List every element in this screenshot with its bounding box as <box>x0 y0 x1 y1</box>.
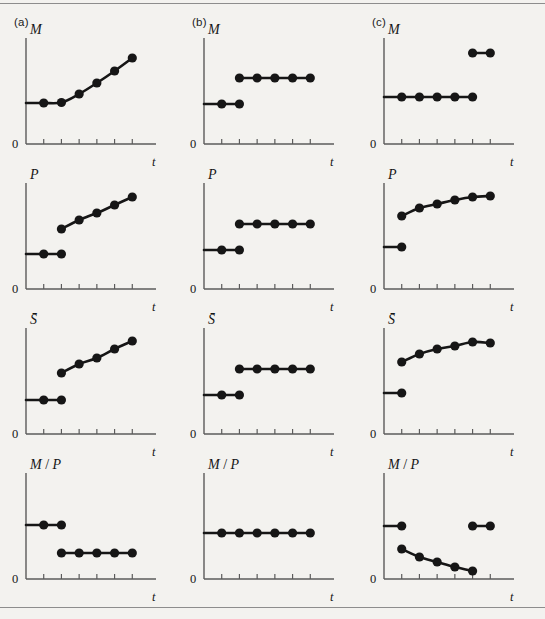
data-point <box>468 337 477 346</box>
data-point <box>433 557 442 566</box>
data-point <box>128 53 137 62</box>
chart-canvas-c-P: Pt0 <box>362 171 532 316</box>
y-axis-label: P <box>29 167 39 182</box>
data-point <box>75 215 84 224</box>
data-point <box>288 364 297 373</box>
series-line <box>402 342 491 362</box>
data-point <box>397 357 406 366</box>
y-axis-label: M / P <box>207 457 240 472</box>
origin-label: 0 <box>190 137 196 151</box>
series-line <box>402 196 491 216</box>
y-axis-label: S̄ <box>208 312 215 327</box>
data-point <box>217 528 226 537</box>
y-axis-label: P <box>387 167 397 182</box>
data-point <box>110 548 119 557</box>
data-point <box>253 73 262 82</box>
y-axis-label: P <box>207 167 217 182</box>
chart-panel-b-P: Pt0 <box>182 171 352 316</box>
chart-canvas-b-P: Pt0 <box>182 171 352 316</box>
data-point <box>486 521 495 530</box>
data-point <box>92 208 101 217</box>
data-point <box>217 99 226 108</box>
data-point <box>253 364 262 373</box>
data-point <box>57 368 66 377</box>
data-point <box>288 73 297 82</box>
origin-label: 0 <box>12 282 18 296</box>
data-point <box>92 548 101 557</box>
y-axis-label: M <box>387 22 401 37</box>
chart-canvas-a-M: Mt0 <box>4 26 174 171</box>
data-point <box>468 566 477 575</box>
data-point <box>57 224 66 233</box>
figure-panel-grid: (a) (b) (c) Mt0Pt0S̄t0M / Pt0Mt0Pt0S̄t0M… <box>0 0 545 619</box>
y-axis-label: M <box>207 22 221 37</box>
data-point <box>450 341 459 350</box>
data-point <box>397 521 406 530</box>
y-axis-label: M / P <box>387 457 420 472</box>
chart-canvas-a-P: Pt0 <box>4 171 174 316</box>
data-point <box>270 219 279 228</box>
data-point <box>486 191 495 200</box>
x-axis-label: t <box>152 300 156 314</box>
data-point <box>306 73 315 82</box>
data-point <box>433 92 442 101</box>
data-point <box>270 364 279 373</box>
data-point <box>75 359 84 368</box>
x-axis-label: t <box>510 445 514 459</box>
data-point <box>397 92 406 101</box>
chart-panel-a-S: S̄t0 <box>4 316 174 461</box>
origin-label: 0 <box>190 427 196 441</box>
data-point <box>235 99 244 108</box>
data-point <box>39 98 48 107</box>
data-point <box>468 92 477 101</box>
data-point <box>450 92 459 101</box>
data-point <box>288 528 297 537</box>
x-axis-label: t <box>330 300 334 314</box>
x-axis-label: t <box>152 445 156 459</box>
x-axis-label: t <box>330 155 334 169</box>
data-point <box>397 242 406 251</box>
data-point <box>270 73 279 82</box>
origin-label: 0 <box>370 282 376 296</box>
data-point <box>110 200 119 209</box>
chart-canvas-c-S: S̄t0 <box>362 316 532 461</box>
data-point <box>75 89 84 98</box>
y-axis-label: M <box>29 22 43 37</box>
x-axis-label: t <box>510 590 514 604</box>
data-point <box>306 219 315 228</box>
x-axis-label: t <box>510 300 514 314</box>
x-axis-label: t <box>510 155 514 169</box>
data-point <box>235 390 244 399</box>
chart-canvas-b-M: Mt0 <box>182 26 352 171</box>
data-point <box>288 219 297 228</box>
origin-label: 0 <box>370 572 376 586</box>
data-point <box>306 364 315 373</box>
data-point <box>415 349 424 358</box>
data-point <box>57 520 66 529</box>
data-point <box>253 528 262 537</box>
y-axis-label: M / P <box>29 457 62 472</box>
data-point <box>397 211 406 220</box>
data-point <box>235 364 244 373</box>
data-point <box>128 192 137 201</box>
chart-panel-a-P: Pt0 <box>4 171 174 316</box>
data-point <box>110 66 119 75</box>
y-axis-label: S̄ <box>30 312 37 327</box>
origin-label: 0 <box>12 137 18 151</box>
data-point <box>468 192 477 201</box>
data-point <box>253 219 262 228</box>
data-point <box>57 548 66 557</box>
data-point <box>450 562 459 571</box>
chart-panel-b-MP: M / Pt0 <box>182 461 352 606</box>
data-point <box>217 390 226 399</box>
origin-label: 0 <box>12 572 18 586</box>
data-point <box>57 395 66 404</box>
data-point <box>128 548 137 557</box>
chart-canvas-a-S: S̄t0 <box>4 316 174 461</box>
data-point <box>128 336 137 345</box>
x-axis-label: t <box>330 590 334 604</box>
data-point <box>433 344 442 353</box>
data-point <box>397 388 406 397</box>
data-point <box>235 528 244 537</box>
data-point <box>235 219 244 228</box>
